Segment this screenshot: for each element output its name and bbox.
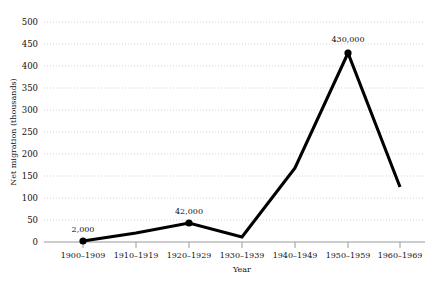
- y-axis-title: Net migration (thousands): [9, 78, 18, 185]
- x-tick-1910-1919: 1910–1919: [114, 251, 159, 260]
- x-tick-1920-1929: 1920–1929: [167, 251, 212, 260]
- point-label-1950-1959: 430,000: [331, 35, 364, 44]
- point-label-1900-1909: 2,000: [72, 225, 95, 234]
- x-tick-1900-1909: 1900–1909: [61, 251, 106, 260]
- y-tick-400: 400: [22, 61, 38, 71]
- marker-1900-1909: [79, 237, 86, 244]
- y-tick-300: 300: [22, 105, 38, 115]
- x-tick-1950-1959: 1950–1959: [326, 251, 371, 260]
- chart-canvas: 500 450 400 350 300 250 200 150 100 50 0…: [0, 0, 438, 286]
- marker-1920-1929: [185, 219, 192, 226]
- x-tick-1960-1969: 1960–1969: [378, 251, 423, 260]
- x-tick-1930-1939: 1930–1939: [220, 251, 265, 260]
- point-label-1920-1929: 42,000: [175, 207, 203, 216]
- gridlines: [44, 22, 425, 220]
- y-tick-500: 500: [22, 17, 38, 27]
- series-line-net-migration: [83, 53, 400, 241]
- line-chart: 500 450 400 350 300 250 200 150 100 50 0…: [0, 0, 438, 286]
- data-point-labels: 2,000 42,000 430,000: [72, 35, 365, 234]
- x-axis-tick-labels: 1900–1909 1910–1919 1920–1929 1930–1939 …: [61, 251, 423, 260]
- y-tick-150: 150: [22, 171, 38, 181]
- y-axis-tick-labels: 500 450 400 350 300 250 200 150 100 50 0: [22, 17, 38, 247]
- x-axis-tickmarks: [83, 242, 400, 248]
- series-markers: [79, 49, 351, 244]
- y-tick-250: 250: [22, 127, 38, 137]
- y-tick-350: 350: [22, 83, 38, 93]
- y-tick-50: 50: [27, 215, 38, 225]
- x-axis-title: Year: [232, 265, 251, 274]
- y-tick-450: 450: [22, 39, 38, 49]
- x-tick-1940-1949: 1940–1949: [273, 251, 318, 260]
- y-tick-200: 200: [22, 149, 38, 159]
- y-tick-0: 0: [33, 237, 38, 247]
- y-tick-100: 100: [22, 193, 38, 203]
- marker-1950-1959: [344, 49, 351, 56]
